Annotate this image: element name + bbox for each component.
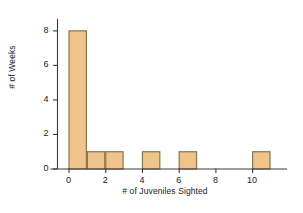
y-axis-tick-label: 8 bbox=[33, 26, 49, 35]
histogram-bar bbox=[179, 152, 196, 169]
y-axis-title: # of Weeks bbox=[7, 31, 17, 103]
y-axis-tick-label: 0 bbox=[33, 164, 49, 173]
x-axis-tick-label: 10 bbox=[243, 176, 261, 185]
histogram-bar bbox=[87, 152, 104, 169]
x-axis-tick-label: 2 bbox=[96, 176, 114, 185]
histogram-chart: # of Weeks # of Juveniles Sighted 02468 … bbox=[0, 0, 303, 213]
histogram-bar bbox=[142, 152, 159, 169]
x-axis-tick-label: 6 bbox=[170, 176, 188, 185]
x-axis-tick-label: 8 bbox=[206, 176, 224, 185]
histogram-bar bbox=[106, 152, 123, 169]
x-axis-tick-label: 0 bbox=[60, 176, 78, 185]
y-axis-tick-label: 4 bbox=[33, 95, 49, 104]
x-axis-title: # of Juveniles Sighted bbox=[55, 186, 275, 196]
histogram-bar bbox=[69, 31, 86, 169]
x-axis-tick-label: 4 bbox=[133, 176, 151, 185]
bars-layer bbox=[69, 31, 270, 169]
y-axis-tick-label: 6 bbox=[33, 60, 49, 69]
y-axis-tick-label: 2 bbox=[33, 129, 49, 138]
histogram-bar bbox=[253, 152, 270, 169]
